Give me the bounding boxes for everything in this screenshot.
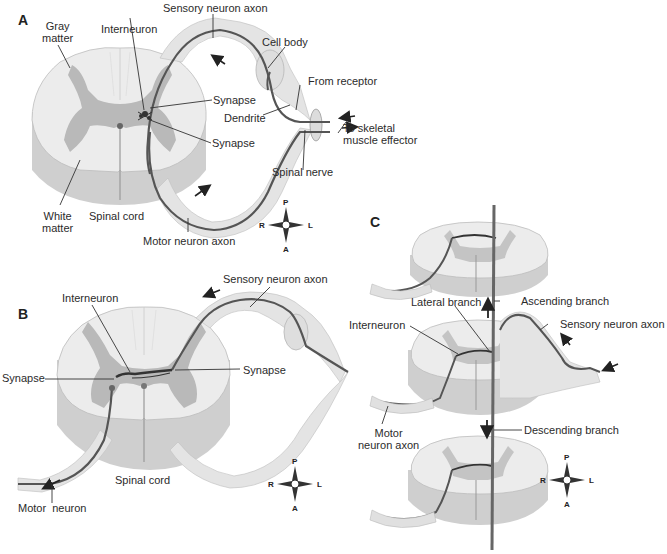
panel-c-compass xyxy=(549,462,585,498)
label-motor-neuron-axon-c-line2: neuron axon xyxy=(358,439,419,451)
panel-c-vertical-axon xyxy=(492,205,494,550)
label-synapse-b-right: Synapse xyxy=(243,364,286,376)
label-dendrite: Dendrite xyxy=(224,112,266,124)
label-spinal-nerve: Spinal nerve xyxy=(272,166,333,178)
panel-b-spinal-cord xyxy=(57,307,230,470)
compass-b-right: L xyxy=(317,480,322,489)
panel-a-sensory-arrow xyxy=(213,56,225,64)
label-motor-neuron-b: Motor neuron xyxy=(18,502,86,514)
panel-a-from-receptor-arrow xyxy=(341,116,355,118)
panel-a-letter: A xyxy=(18,12,28,28)
compass-c-left: R xyxy=(540,476,546,485)
compass-a-top: P xyxy=(283,198,288,207)
compass-a-left: R xyxy=(259,221,265,230)
compass-a-right: L xyxy=(308,221,313,230)
label-cell-body: Cell body xyxy=(262,36,308,48)
label-sensory-neuron-axon-c: Sensory neuron axon xyxy=(560,318,665,330)
label-interneuron-a: Interneuron xyxy=(101,23,157,35)
label-gray-matter: Gray matter xyxy=(42,20,73,44)
panel-a-compass xyxy=(268,207,304,243)
label-from-receptor: From receptor xyxy=(308,75,377,87)
label-interneuron-b: Interneuron xyxy=(62,292,118,304)
label-sensory-neuron-axon-b: Sensory neuron axon xyxy=(223,273,328,285)
label-motor-neuron-axon-c: Motor neuron axon xyxy=(358,427,419,451)
panel-c-sensory-arrow xyxy=(562,335,570,345)
label-white-matter-line1: White xyxy=(42,210,73,222)
compass-b-bottom: A xyxy=(292,504,298,513)
label-interneuron-c: Interneuron xyxy=(349,319,405,331)
panel-a-spinal-cord xyxy=(32,48,206,205)
label-gray-matter-line1: Gray xyxy=(42,20,73,32)
label-lateral-branch: Lateral branch xyxy=(411,296,481,308)
label-to-effector-line2: muscle effector xyxy=(343,134,417,146)
label-synapse-a2: Synapse xyxy=(212,137,255,149)
label-white-matter-line2: matter xyxy=(42,222,73,234)
label-white-matter: White matter xyxy=(42,210,73,234)
label-to-effector-line1: To skeletal xyxy=(343,122,417,134)
compass-b-left: R xyxy=(268,480,274,489)
label-synapse-a1: Synapse xyxy=(213,94,256,106)
label-spinal-cord-b: Spinal cord xyxy=(115,474,170,486)
panel-c-receptor-arrow xyxy=(604,364,618,370)
label-to-skeletal-muscle-effector: To skeletal muscle effector xyxy=(343,122,417,146)
panel-b-sensory-arrow xyxy=(205,290,220,296)
label-spinal-cord-a: Spinal cord xyxy=(89,210,144,222)
panel-a-motor-arrow xyxy=(195,186,209,196)
panel-c-letter: C xyxy=(370,214,380,230)
panel-c-segment-top xyxy=(370,222,548,300)
compass-c-top: P xyxy=(564,453,569,462)
label-ascending-branch: Ascending branch xyxy=(521,295,609,307)
label-motor-neuron-axon-a: Motor neuron axon xyxy=(143,235,235,247)
label-motor-neuron-axon-c-line1: Motor xyxy=(358,427,419,439)
label-gray-matter-line2: matter xyxy=(42,32,73,44)
compass-c-bottom: A xyxy=(564,500,570,509)
label-descending-branch: Descending branch xyxy=(524,424,619,436)
panel-b-letter: B xyxy=(18,306,28,322)
label-synapse-b-left: Synapse xyxy=(2,372,45,384)
compass-b-top: P xyxy=(292,457,297,466)
compass-c-right: L xyxy=(589,476,594,485)
compass-a-bottom: A xyxy=(283,245,289,254)
label-sensory-neuron-axon-a: Sensory neuron axon xyxy=(163,2,268,14)
